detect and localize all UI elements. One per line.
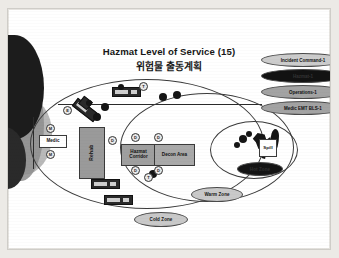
- legend-label: Incident Command-1: [281, 58, 326, 63]
- vehicle-window: [107, 198, 120, 202]
- spill-label: Spill: [263, 146, 272, 151]
- decon-area-box[interactable]: Decon Area: [154, 144, 195, 166]
- rehab-area-box[interactable]: Rehab: [79, 127, 105, 179]
- diagram-canvas: Hazmat Level of Service (15) 위험물 출동계획 Re…: [8, 9, 330, 249]
- unit-marker-d[interactable]: D: [154, 166, 163, 175]
- slide-background: Hazmat Level of Service (15) 위험물 출동계획 Re…: [0, 0, 339, 258]
- unit-marker-m[interactable]: M: [46, 124, 55, 133]
- vehicle-window-rear: [123, 198, 129, 202]
- vehicle-window-rear: [131, 90, 137, 94]
- legend-label: Hazmat-1: [293, 74, 313, 79]
- personnel-dot: [246, 131, 252, 137]
- warm-zone-label-pill[interactable]: Warm Zone: [191, 187, 243, 202]
- legend-item-operations[interactable]: Operations-1: [261, 85, 330, 99]
- vehicle-window: [115, 90, 128, 94]
- apparatus-vehicle-lower-1[interactable]: [91, 179, 120, 189]
- legend: Incident Command-1 Hazmat-1 Operations-1…: [261, 53, 330, 117]
- cold-zone-label-pill[interactable]: Cold Zone: [134, 212, 188, 227]
- personnel-dot: [239, 135, 247, 143]
- personnel-dot: [159, 93, 167, 101]
- unit-marker-t[interactable]: T: [139, 82, 148, 91]
- apparatus-vehicle-lower-2[interactable]: [104, 195, 133, 205]
- decon-area-label: Decon Area: [162, 153, 187, 158]
- legend-label: Operations-1: [289, 90, 317, 95]
- medic-label: Medic: [46, 139, 59, 144]
- unit-marker-m[interactable]: M: [46, 150, 55, 159]
- personnel-dot: [118, 84, 124, 90]
- hazmat-corridor-label: Hazmat Corridor: [122, 150, 155, 160]
- legend-item-hazmat[interactable]: Hazmat-1: [261, 69, 330, 83]
- cold-zone-label: Cold Zone: [150, 217, 173, 222]
- unit-marker-d[interactable]: D: [108, 136, 117, 145]
- vehicle-window-rear: [110, 182, 116, 186]
- legend-item-incident-command[interactable]: Incident Command-1: [261, 53, 330, 67]
- unit-marker-e[interactable]: E: [63, 106, 72, 115]
- hot-zone-label-pill[interactable]: Hot Zone: [237, 162, 283, 176]
- warm-zone-label: Warm Zone: [204, 192, 229, 197]
- spill-source-box[interactable]: Spill: [259, 139, 277, 157]
- unit-marker-t[interactable]: T: [144, 173, 153, 182]
- legend-item-medic-emt-bls[interactable]: Medic EMT BLS-1: [261, 101, 330, 115]
- personnel-dot: [173, 91, 181, 99]
- medic-station-box[interactable]: Medic: [39, 135, 67, 148]
- unit-marker-d[interactable]: D: [131, 133, 140, 142]
- unit-marker-d[interactable]: D: [154, 133, 163, 142]
- personnel-dot: [93, 113, 101, 121]
- diagram-frame: Hazmat Level of Service (15) 위험물 출동계획 Re…: [7, 8, 331, 250]
- hot-zone-label: Hot Zone: [250, 167, 270, 172]
- unit-marker-d[interactable]: D: [131, 166, 140, 175]
- apparatus-vehicle-top[interactable]: [112, 87, 141, 97]
- personnel-dot: [234, 142, 240, 148]
- hazmat-corridor-box[interactable]: Hazmat Corridor: [121, 144, 156, 166]
- vehicle-window: [94, 182, 107, 186]
- personnel-dot: [101, 103, 109, 111]
- personnel-dot: [86, 100, 92, 106]
- rehab-label: Rehab: [89, 145, 94, 161]
- legend-label: Medic EMT BLS-1: [284, 106, 322, 111]
